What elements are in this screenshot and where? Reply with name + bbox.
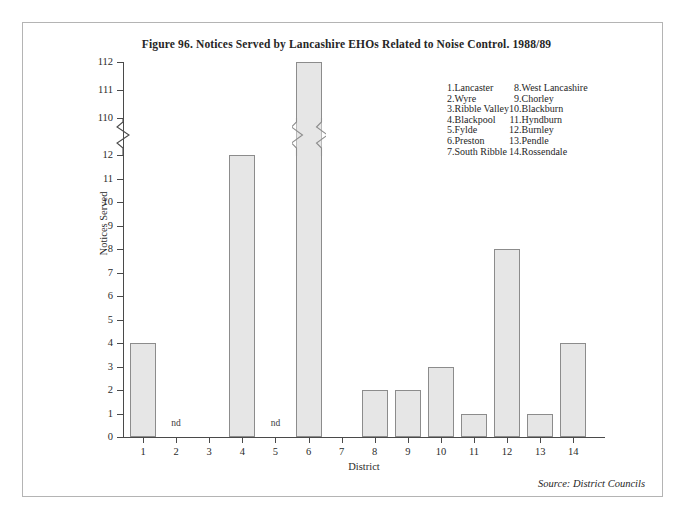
y-tick-2 xyxy=(117,390,123,391)
y-tick-110 xyxy=(117,118,123,119)
x-tick-label-3: 3 xyxy=(194,446,224,457)
y-tick-label-11: 11 xyxy=(83,174,113,184)
y-tick-4 xyxy=(117,343,123,344)
x-tick-label-4: 4 xyxy=(227,446,257,457)
y-tick-label-6: 6 xyxy=(83,291,113,301)
y-axis-break-icon xyxy=(114,118,134,156)
bar-district-13 xyxy=(527,414,553,438)
legend-row: 7. South Ribble 14. Rossendale xyxy=(447,147,588,158)
y-tick-label-1: 1 xyxy=(83,409,113,419)
bar-district-12 xyxy=(494,249,520,437)
y-tick-label-4: 4 xyxy=(83,338,113,348)
x-axis-line xyxy=(123,437,605,438)
x-tick-8 xyxy=(375,437,376,443)
legend-right-num-6: 13. xyxy=(509,136,522,147)
x-tick-6 xyxy=(309,437,310,443)
x-tick-label-2: 2 xyxy=(161,446,191,457)
x-tick-label-13: 13 xyxy=(525,446,555,457)
bar-district-11 xyxy=(461,414,487,438)
y-tick-9 xyxy=(117,226,123,227)
x-tick-label-8: 8 xyxy=(360,446,390,457)
x-tick-label-11: 11 xyxy=(459,446,489,457)
legend-right-num-1: 8. xyxy=(509,83,522,94)
y-tick-label-110: 110 xyxy=(83,113,113,123)
x-tick-label-12: 12 xyxy=(492,446,522,457)
y-tick-7 xyxy=(117,273,123,274)
x-tick-label-9: 9 xyxy=(393,446,423,457)
x-tick-3 xyxy=(209,437,210,443)
x-tick-label-10: 10 xyxy=(426,446,456,457)
y-tick-1 xyxy=(117,414,123,415)
y-tick-112 xyxy=(117,62,123,63)
y-tick-label-0: 0 xyxy=(83,432,113,442)
y-tick-label-5: 5 xyxy=(83,315,113,325)
bar-district-8 xyxy=(362,390,388,437)
bar-district-10 xyxy=(428,367,454,438)
bar-district-9 xyxy=(395,390,421,437)
legend-right-name-6: Pendle xyxy=(522,136,588,147)
district-legend: 1. Lancaster 8. West Lancashire 2. Wyre … xyxy=(447,83,588,157)
x-tick-label-7: 7 xyxy=(327,446,357,457)
legend-left-num-6: 6. xyxy=(447,136,455,147)
x-tick-2 xyxy=(176,437,177,443)
no-data-label-5: nd xyxy=(255,418,295,428)
y-tick-label-8: 8 xyxy=(83,244,113,254)
x-axis-title: District xyxy=(123,461,605,472)
x-tick-4 xyxy=(242,437,243,443)
y-tick-0 xyxy=(117,437,123,438)
x-tick-12 xyxy=(507,437,508,443)
x-tick-1 xyxy=(143,437,144,443)
x-tick-7 xyxy=(342,437,343,443)
x-tick-label-14: 14 xyxy=(558,446,588,457)
y-tick-10 xyxy=(117,202,123,203)
x-tick-label-5: 5 xyxy=(260,446,290,457)
y-tick-label-12: 12 xyxy=(83,150,113,160)
legend-right-num-7: 14. xyxy=(509,147,522,158)
y-tick-label-7: 7 xyxy=(83,268,113,278)
bar-district-1 xyxy=(130,343,156,437)
legend-row: 1. Lancaster 8. West Lancashire xyxy=(447,83,588,94)
x-tick-5 xyxy=(275,437,276,443)
bar-chart-plot: Notices Served District 1 2 3 4 5 6 7 8 … xyxy=(0,0,693,521)
x-tick-label-6: 6 xyxy=(294,446,324,457)
y-tick-8 xyxy=(117,249,123,250)
legend-left-name-6: Preston xyxy=(455,136,510,147)
legend-right-name-7: Rossendale xyxy=(522,147,588,158)
legend-left-name-7: South Ribble xyxy=(455,147,510,158)
x-tick-14 xyxy=(573,437,574,443)
legend-row: 6. Preston 13. Pendle xyxy=(447,136,588,147)
y-tick-5 xyxy=(117,320,123,321)
y-tick-label-9: 9 xyxy=(83,221,113,231)
bar-district-14 xyxy=(560,343,586,437)
legend-left-num-7: 7. xyxy=(447,147,455,158)
legend-table: 1. Lancaster 8. West Lancashire 2. Wyre … xyxy=(447,83,588,157)
legend-right-name-1: West Lancashire xyxy=(522,83,588,94)
bar-break-icon-6 xyxy=(292,118,326,156)
legend-body: 1. Lancaster 8. West Lancashire 2. Wyre … xyxy=(447,83,588,157)
y-tick-11 xyxy=(117,179,123,180)
y-tick-label-112: 112 xyxy=(83,57,113,67)
legend-left-name-1: Lancaster xyxy=(455,83,510,94)
y-tick-12 xyxy=(117,155,123,156)
x-tick-9 xyxy=(408,437,409,443)
source-note: Source: District Councils xyxy=(0,478,645,489)
legend-left-num-1: 1. xyxy=(447,83,455,94)
x-tick-10 xyxy=(441,437,442,443)
x-tick-label-1: 1 xyxy=(128,446,158,457)
y-tick-6 xyxy=(117,296,123,297)
y-tick-label-2: 2 xyxy=(83,385,113,395)
y-tick-label-10: 10 xyxy=(83,197,113,207)
y-tick-111 xyxy=(117,90,123,91)
y-tick-label-3: 3 xyxy=(83,362,113,372)
x-tick-13 xyxy=(540,437,541,443)
x-tick-11 xyxy=(474,437,475,443)
y-tick-label-111: 111 xyxy=(83,85,113,95)
bar-district-4 xyxy=(229,155,255,437)
no-data-label-2: nd xyxy=(156,418,196,428)
y-tick-3 xyxy=(117,367,123,368)
